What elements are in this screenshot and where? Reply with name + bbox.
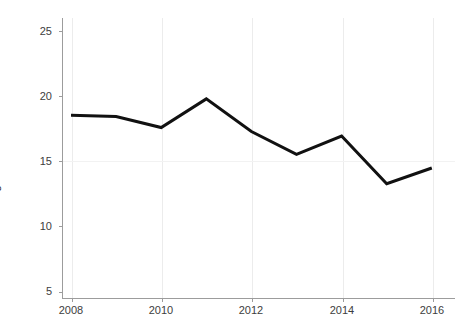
x-tick-mark-2010	[162, 298, 163, 302]
x-tick-mark-2014	[343, 298, 344, 302]
gridline-vertical-2014	[343, 18, 344, 298]
y-tick-label-15: 15	[8, 156, 52, 167]
y-tick-mark-10	[59, 226, 63, 227]
y-tick-mark-15	[59, 161, 63, 162]
y-axis-title: Framing Runs/7000 PA	[0, 0, 26, 335]
x-tick-mark-2016	[433, 298, 434, 302]
y-tick-label-20: 20	[8, 91, 52, 102]
x-tick-mark-2012	[252, 298, 253, 302]
y-tick-label-5: 5	[8, 286, 52, 297]
gridline-vertical-2012	[252, 18, 253, 298]
gridline-vertical-2010	[162, 18, 163, 298]
x-tick-label-2010: 2010	[131, 305, 191, 316]
gridline-vertical-2008	[72, 18, 73, 298]
x-tick-label-2012: 2012	[221, 305, 281, 316]
y-tick-label-10: 10	[8, 221, 52, 232]
y-axis-title-text: Framing Runs/7000 PA	[0, 107, 1, 228]
y-tick-mark-5	[59, 292, 63, 293]
y-tick-mark-20	[59, 96, 63, 97]
x-tick-label-2014: 2014	[312, 305, 372, 316]
gridline-horizontal-15	[63, 161, 455, 162]
line-chart: Framing Runs/7000 PA 25 20 15 10 5 2008 …	[0, 0, 465, 335]
y-tick-label-25: 25	[8, 26, 52, 37]
x-tick-mark-2008	[72, 298, 73, 302]
gridline-vertical-2016	[433, 18, 434, 298]
x-tick-label-2008: 2008	[41, 305, 101, 316]
plot-area	[62, 18, 455, 299]
y-tick-mark-25	[59, 31, 63, 32]
x-tick-label-2016: 2016	[402, 305, 462, 316]
